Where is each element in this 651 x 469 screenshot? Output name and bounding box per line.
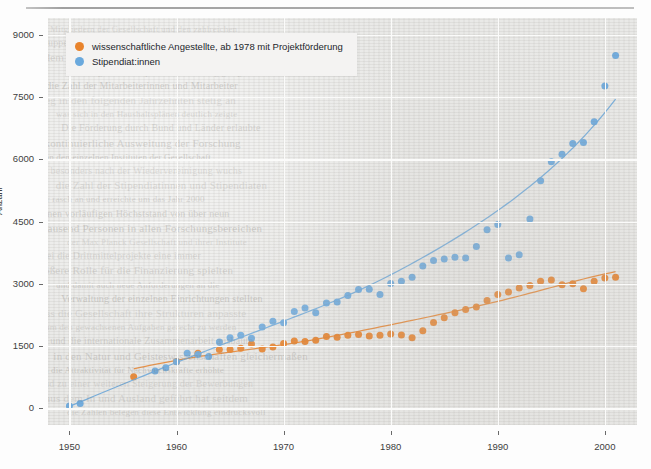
x-tick-label: 1950 — [47, 441, 91, 452]
data-point — [312, 337, 319, 344]
data-point — [484, 297, 491, 304]
data-point — [334, 299, 341, 306]
x-tick-mark — [69, 431, 70, 435]
data-point — [248, 335, 255, 342]
data-point — [473, 243, 480, 250]
data-point — [344, 332, 351, 339]
x-tick-mark — [498, 431, 499, 435]
gridline-vertical — [284, 18, 285, 425]
y-tick-mark — [39, 222, 43, 223]
y-tick-mark — [39, 97, 43, 98]
gridline-vertical — [391, 18, 392, 425]
legend-swatch-orange — [75, 42, 84, 51]
data-point — [430, 257, 437, 264]
y-tick-label: 3000 — [0, 278, 34, 289]
data-point — [291, 338, 298, 345]
data-point — [559, 151, 566, 158]
x-tick-mark — [391, 431, 392, 435]
y-tick-label: 4500 — [0, 216, 34, 227]
data-point — [291, 308, 298, 315]
trend-line — [69, 99, 615, 406]
data-point — [591, 118, 598, 125]
legend-swatch-blue — [75, 57, 84, 66]
data-point — [516, 251, 523, 258]
data-point — [259, 323, 266, 330]
data-point — [580, 285, 587, 292]
gridline-vertical — [69, 18, 70, 425]
gridline-horizontal — [48, 159, 637, 160]
data-point — [366, 333, 373, 340]
y-tick-mark — [39, 284, 43, 285]
data-point — [419, 327, 426, 334]
y-tick-mark — [39, 408, 43, 409]
data-point — [505, 255, 512, 262]
chart-legend: wissenschaftliche Angestellte, ab 1978 m… — [66, 33, 357, 76]
data-point — [473, 304, 480, 311]
x-tick-mark — [284, 431, 285, 435]
y-tick-label: 1500 — [0, 340, 34, 351]
y-tick-label: 9000 — [0, 29, 34, 40]
data-point — [77, 400, 84, 407]
data-point — [323, 333, 330, 340]
data-point — [366, 286, 373, 293]
data-point — [409, 274, 416, 281]
data-point — [152, 368, 159, 375]
data-point — [612, 274, 619, 281]
gridline-vertical — [605, 18, 606, 425]
series-group — [66, 52, 619, 410]
data-point — [237, 332, 244, 339]
data-point — [302, 304, 309, 311]
data-point — [409, 334, 416, 341]
x-tick-mark — [605, 431, 606, 435]
x-tick-label: 2000 — [583, 441, 627, 452]
data-point — [516, 284, 523, 291]
gridline-horizontal — [48, 222, 637, 223]
y-tick-mark — [39, 159, 43, 160]
data-point — [216, 338, 223, 345]
data-point — [462, 306, 469, 313]
data-point — [505, 289, 512, 296]
data-point — [376, 291, 383, 298]
y-tick-label: 0 — [0, 402, 34, 413]
page-background: den Mitgliedern der Gesellschaft und den… — [0, 0, 651, 469]
data-point — [376, 332, 383, 339]
x-tick-label: 1980 — [369, 441, 413, 452]
data-point — [269, 318, 276, 325]
data-point — [548, 277, 555, 284]
data-point — [612, 52, 619, 59]
data-point — [451, 254, 458, 261]
plot-area: den Mitgliedern der Gesellschaft und den… — [48, 18, 637, 425]
gridline-horizontal — [48, 284, 637, 285]
data-point — [323, 299, 330, 306]
data-point — [441, 255, 448, 262]
gridline-vertical — [498, 18, 499, 425]
x-tick-label: 1960 — [155, 441, 199, 452]
data-point — [462, 255, 469, 262]
gridline-horizontal — [48, 97, 637, 98]
y-axis-title: Anzahl — [0, 187, 4, 215]
data-point — [580, 139, 587, 146]
y-tick-mark — [39, 35, 43, 36]
series-group — [130, 272, 619, 381]
y-tick-label: 6000 — [0, 153, 34, 164]
data-point — [194, 351, 201, 358]
data-point — [451, 309, 458, 316]
x-tick-label: 1990 — [476, 441, 520, 452]
x-tick-label: 1970 — [262, 441, 306, 452]
y-tick-label: 7500 — [0, 91, 34, 102]
legend-label-angestellte: wissenschaftliche Angestellte, ab 1978 m… — [92, 41, 343, 52]
gridline-horizontal — [48, 346, 637, 347]
legend-label-stipendiaten: Stipendiat:innen — [92, 56, 160, 67]
legend-item-angestellte: wissenschaftliche Angestellte, ab 1978 m… — [75, 39, 343, 54]
gridline-vertical — [177, 18, 178, 425]
data-point — [334, 334, 341, 341]
data-point — [355, 286, 362, 293]
data-point — [302, 338, 309, 345]
data-point — [484, 226, 491, 233]
y-tick-mark — [39, 346, 43, 347]
gridline-horizontal — [48, 408, 637, 409]
data-point — [344, 292, 351, 299]
data-point — [162, 364, 169, 371]
data-point — [537, 177, 544, 184]
data-point — [569, 140, 576, 147]
